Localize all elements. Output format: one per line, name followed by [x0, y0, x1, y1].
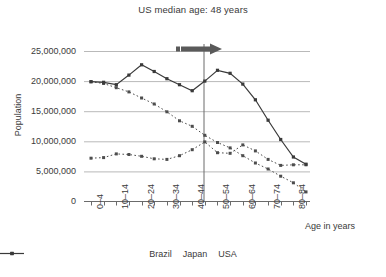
data-series-layer	[89, 63, 307, 193]
x-tick-label: 40–44	[196, 184, 206, 209]
data-point-usa	[191, 89, 194, 92]
data-point-brazil	[229, 152, 232, 155]
data-point-usa	[127, 74, 130, 77]
data-point-usa	[241, 83, 244, 86]
x-tick-label: 80–84	[297, 184, 307, 209]
data-point-japan	[191, 125, 194, 128]
chart-legend: BrazilJapanUSA	[0, 249, 386, 259]
data-point-japan	[292, 181, 295, 184]
data-point-brazil	[267, 158, 270, 161]
data-point-usa	[203, 80, 206, 83]
x-tick-label: 30–34	[171, 184, 181, 209]
data-point-brazil	[254, 149, 257, 152]
data-point-usa	[165, 77, 168, 80]
data-point-brazil	[203, 140, 206, 143]
data-point-usa	[254, 98, 257, 101]
data-point-usa	[267, 119, 270, 122]
data-point-brazil	[292, 163, 295, 166]
data-point-usa	[140, 63, 143, 66]
data-point-usa	[279, 138, 282, 141]
data-point-usa	[115, 83, 118, 86]
arrow-head	[210, 44, 222, 55]
data-point-japan	[127, 90, 130, 93]
data-point-japan	[241, 154, 244, 157]
data-point-usa	[304, 163, 307, 166]
data-point-brazil	[165, 158, 168, 161]
legend-swatch-usa	[0, 249, 24, 258]
data-point-japan	[254, 162, 257, 165]
data-point-brazil	[279, 164, 282, 167]
data-point-usa	[89, 80, 92, 83]
data-point-brazil	[153, 157, 156, 160]
data-point-brazil	[140, 155, 143, 158]
legend-label: Japan	[183, 249, 208, 259]
data-point-brazil	[178, 154, 181, 157]
data-point-japan	[203, 134, 206, 137]
data-point-brazil	[90, 157, 93, 160]
data-point-brazil	[127, 153, 130, 156]
data-point-japan	[140, 97, 143, 100]
plot-area	[0, 0, 386, 277]
data-point-brazil	[102, 156, 105, 159]
series-line-usa	[91, 65, 306, 164]
data-point-usa	[102, 81, 105, 84]
x-tick-label: 60–64	[247, 184, 257, 209]
data-point-brazil	[115, 152, 118, 155]
arrow-shaft	[181, 47, 210, 52]
legend-label: Brazil	[149, 249, 172, 259]
data-point-japan	[229, 146, 232, 149]
population-by-age-chart: US median age: 48 years Population Age i…	[0, 0, 386, 277]
series-line-japan	[91, 82, 306, 192]
data-point-japan	[178, 119, 181, 122]
data-point-usa	[216, 69, 219, 72]
data-point-usa	[229, 72, 232, 75]
data-point-japan	[115, 86, 118, 89]
x-tick-label: 0–4	[95, 194, 105, 209]
legend-item-brazil[interactable]: Brazil	[149, 249, 172, 259]
legend-item-japan[interactable]: Japan	[183, 249, 208, 259]
x-tick-label: 10–14	[120, 184, 130, 209]
x-tick-label: 50–54	[221, 184, 231, 209]
data-point-japan	[267, 168, 270, 171]
data-point-japan	[279, 175, 282, 178]
data-point-usa	[178, 83, 181, 86]
data-point-usa	[292, 155, 295, 158]
gridlines	[84, 52, 310, 172]
data-point-brazil	[191, 148, 194, 151]
median-age-marker	[176, 44, 222, 202]
legend-label: USA	[218, 249, 237, 259]
x-tick-label: 20–24	[146, 184, 156, 209]
arrow-tail-cap	[176, 47, 180, 52]
data-point-usa	[153, 70, 156, 73]
data-point-brazil	[216, 151, 219, 154]
data-point-japan	[153, 103, 156, 106]
series-line-brazil	[91, 142, 306, 166]
data-point-japan	[216, 141, 219, 144]
legend-item-usa[interactable]: USA	[218, 249, 237, 259]
data-point-brazil	[241, 143, 244, 146]
x-tick-label: 70–74	[272, 184, 282, 209]
data-point-japan	[165, 110, 168, 113]
